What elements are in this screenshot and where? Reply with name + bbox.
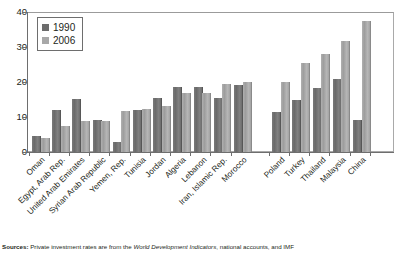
- legend-label-1990: 1990: [53, 23, 75, 33]
- source-note-prefix: Sources:: [2, 243, 28, 250]
- source-note-italic-title: World Development Indicators: [133, 243, 216, 250]
- bar-2006-lebanon: [202, 93, 211, 153]
- source-note-text-after: , national accounts, and IMF: [216, 243, 294, 250]
- bar-2006-algeria: [182, 93, 191, 152]
- chart-legend: 1990 2006: [37, 17, 83, 51]
- x-label-poland: Poland: [263, 156, 287, 180]
- bar-2006-china: [362, 21, 371, 152]
- bar-2006-poland: [281, 82, 290, 152]
- bar-2006-syrian-arab-republic: [101, 121, 110, 153]
- dark-gray-swatch-icon: [42, 24, 49, 31]
- light-gray-swatch-icon: [42, 37, 49, 44]
- bar-2006-united-arab-emirates: [81, 121, 90, 153]
- x-label-text: Tunisia: [124, 156, 148, 180]
- bar-2006-iran-islamic-rep: [222, 84, 231, 152]
- bar-2006-turkey: [301, 63, 310, 152]
- bar-2006-oman: [41, 138, 50, 152]
- chart-figure: 40 30 20 10 0 1990 20: [0, 0, 398, 255]
- source-note: Sources: Private investment rates are fr…: [2, 243, 398, 251]
- bar-2006-morocco: [243, 82, 252, 152]
- bar-2006-thailand: [321, 54, 330, 152]
- source-note-text-before: Private investment rates are from the: [28, 243, 133, 250]
- bar-2006-tunisia: [142, 109, 151, 152]
- x-axis-category-labels: OmanEgypt, Arab Rep.United Arab Emirates…: [0, 152, 398, 232]
- x-label-text: Jordan: [144, 156, 168, 180]
- x-label-text: Poland: [263, 156, 287, 180]
- legend-label-2006: 2006: [53, 36, 75, 46]
- bar-2006-egypt-arab-rep: [61, 126, 70, 152]
- bar-2006-yemen-rep: [121, 111, 130, 152]
- x-label-jordan: Jordan: [144, 156, 168, 180]
- x-label-china: China: [347, 156, 368, 177]
- x-label-text: China: [347, 156, 368, 177]
- x-label-tunisia: Tunisia: [124, 156, 148, 180]
- bar-2006-malaysia: [341, 41, 350, 152]
- bar-2006-jordan: [162, 106, 171, 152]
- legend-entry-2006: 2006: [42, 34, 75, 47]
- legend-entry-1990: 1990: [42, 21, 75, 34]
